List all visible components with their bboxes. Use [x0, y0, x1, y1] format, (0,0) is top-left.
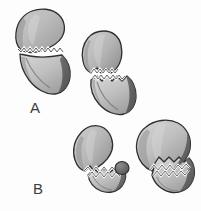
panel-label-a: A: [30, 100, 40, 115]
specimen-a-right: [82, 31, 136, 115]
figure-canvas: A B: [0, 0, 201, 211]
specimen-b-right: [136, 120, 194, 192]
specimen-a-left: [16, 9, 70, 94]
specimen-b-left: [74, 126, 129, 193]
specimen-b-left-bone-fragment-nodule: [115, 162, 129, 175]
panel-label-b: B: [33, 181, 43, 196]
